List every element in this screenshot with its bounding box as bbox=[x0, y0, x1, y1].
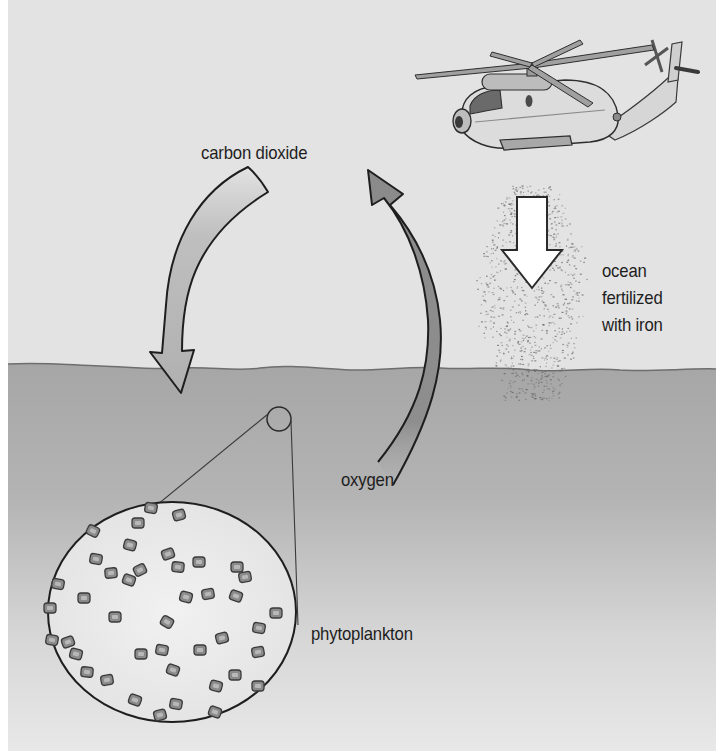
label-oxygen: oxygen bbox=[341, 466, 394, 493]
label-phytoplankton: phytoplankton bbox=[311, 620, 413, 647]
label-ocean-fertilized-line-3: with iron bbox=[602, 311, 663, 338]
label-ocean-fertilized-line-2: fertilized bbox=[602, 284, 663, 311]
label-carbon-dioxide: carbon dioxide bbox=[201, 139, 307, 166]
label-ocean-fertilized: ocean fertilized with iron bbox=[602, 257, 663, 338]
label-ocean-fertilized-line-1: ocean bbox=[602, 257, 663, 284]
diagram-canvas: carbon dioxide oxygen phytoplankton ocea… bbox=[0, 0, 716, 751]
